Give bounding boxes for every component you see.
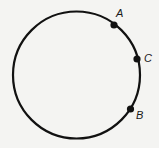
- point-a-dot: [110, 21, 117, 28]
- point-a-label: A: [115, 7, 123, 19]
- circle-diagram: A C B: [0, 0, 159, 148]
- point-a: A: [110, 7, 123, 29]
- point-c-dot: [133, 55, 140, 62]
- diagram-canvas: A C B: [0, 0, 159, 148]
- point-c-label: C: [144, 52, 152, 64]
- point-b-dot: [127, 105, 134, 112]
- circle: [13, 12, 140, 139]
- point-b-label: B: [136, 109, 143, 121]
- point-b: B: [127, 105, 143, 121]
